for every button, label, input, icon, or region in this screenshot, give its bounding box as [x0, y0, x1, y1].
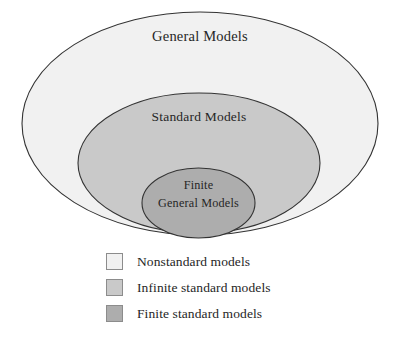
- legend-item-finite-standard: Finite standard models: [106, 301, 346, 326]
- nested-ellipse-diagram: General Models Standard Models Finite Ge…: [0, 0, 393, 245]
- label-general-models: General Models: [152, 28, 248, 44]
- label-standard-models: Standard Models: [152, 109, 247, 124]
- legend-item-nonstandard: Nonstandard models: [106, 249, 346, 274]
- diagram-canvas: General Models Standard Models Finite Ge…: [0, 0, 393, 245]
- label-finite-line1: Finite: [184, 178, 214, 192]
- legend: Nonstandard models Infinite standard mod…: [106, 249, 346, 327]
- legend-label-nonstandard: Nonstandard models: [137, 254, 250, 270]
- label-finite-line2: General Models: [158, 196, 239, 210]
- legend-swatch-finite-standard: [106, 305, 123, 322]
- euler-diagram-figure: General Models Standard Models Finite Ge…: [0, 0, 393, 338]
- legend-label-infinite-standard: Infinite standard models: [137, 280, 271, 296]
- legend-swatch-nonstandard: [106, 253, 123, 270]
- legend-label-finite-standard: Finite standard models: [137, 306, 262, 322]
- legend-swatch-infinite-standard: [106, 279, 123, 296]
- legend-item-infinite-standard: Infinite standard models: [106, 275, 346, 300]
